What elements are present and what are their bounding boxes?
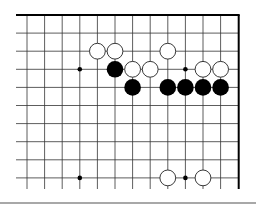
white-stone — [195, 170, 211, 186]
white-stone — [195, 61, 211, 77]
star-point — [183, 67, 188, 72]
black-stone — [124, 79, 141, 96]
black-stone — [177, 79, 194, 96]
white-stone — [125, 61, 141, 77]
black-stone — [195, 79, 212, 96]
white-stone — [213, 61, 229, 77]
black-stone — [212, 79, 229, 96]
board-grid — [16, 15, 240, 189]
star-point — [78, 67, 83, 72]
white-stone — [142, 61, 158, 77]
black-stone — [160, 79, 177, 96]
star-point — [78, 176, 83, 181]
white-stone — [107, 43, 123, 59]
white-stone — [160, 170, 176, 186]
stones — [90, 43, 229, 186]
white-stone — [90, 43, 106, 59]
separator-line — [0, 202, 256, 204]
go-board — [0, 0, 256, 209]
star-point — [183, 176, 188, 181]
black-stone — [107, 61, 124, 78]
white-stone — [160, 43, 176, 59]
